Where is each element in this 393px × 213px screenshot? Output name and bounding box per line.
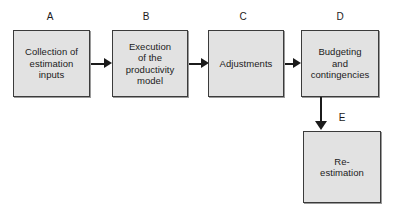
node-c-label: Adjustments — [217, 58, 276, 70]
node-b-label: Execution of the productivity model — [123, 41, 178, 87]
node-d-label: Budgeting and contingencies — [308, 46, 373, 81]
node-execution-of-the-productivity-model[interactable]: Execution of the productivity model — [112, 30, 188, 97]
node-tag-c: C — [235, 11, 251, 22]
arrow-a-to-b-head — [104, 58, 112, 68]
arrow-b-to-c — [189, 58, 209, 69]
node-a-label: Collection of estimation inputs — [22, 46, 81, 81]
arrow-d-to-e-shaft — [320, 97, 322, 123]
node-e-label: Re- estimation — [317, 156, 367, 179]
node-tag-d: D — [332, 11, 348, 22]
node-tag-a: A — [42, 11, 58, 22]
arrow-d-to-e-head — [315, 121, 327, 130]
arrow-d-to-e — [315, 97, 327, 131]
node-budgeting-and-contingencies[interactable]: Budgeting and contingencies — [301, 30, 379, 97]
node-adjustments[interactable]: Adjustments — [208, 30, 284, 97]
node-tag-e: E — [334, 112, 350, 123]
node-collection-of-estimation-inputs[interactable]: Collection of estimation inputs — [13, 30, 90, 97]
arrow-a-to-b — [91, 58, 112, 69]
flowchart-diagram: A B C D E Collection of estimation input… — [0, 0, 393, 213]
node-re-estimation[interactable]: Re- estimation — [303, 131, 381, 203]
node-tag-b: B — [138, 11, 154, 22]
arrow-c-to-d-head — [293, 58, 301, 68]
arrow-a-to-b-shaft — [91, 63, 105, 65]
arrow-c-to-d — [285, 58, 301, 69]
